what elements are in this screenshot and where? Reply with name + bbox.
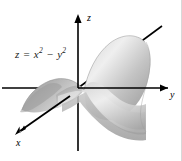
- surface-equation-label: z = x2 − y2: [15, 48, 66, 60]
- right-edge-artifact: [181, 0, 182, 161]
- equation-term2-exponent: 2: [62, 46, 66, 55]
- equation-term1-exponent: 2: [39, 46, 43, 55]
- y-axis-arrowhead: [160, 84, 168, 91]
- equation-lhs: z: [15, 48, 19, 60]
- equation-equals: =: [22, 48, 30, 60]
- x-axis-label: x: [16, 138, 20, 148]
- figure-canvas: [0, 0, 182, 161]
- equation-operator: −: [46, 48, 54, 60]
- z-axis-arrowhead: [74, 14, 81, 23]
- saddle-surface-figure: z = x2 − y2 z y x: [0, 0, 182, 161]
- y-axis-label: y: [170, 90, 174, 100]
- z-axis-label: z: [87, 13, 91, 23]
